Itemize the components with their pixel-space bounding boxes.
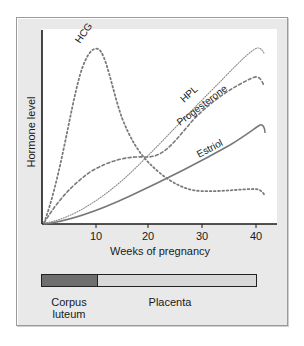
- y-axis-label: Hormone level: [25, 97, 37, 168]
- progesterone-label: Progesterone: [175, 82, 230, 127]
- corpus-label-line1: Corpus: [48, 296, 90, 308]
- hpl-curve: [44, 48, 264, 223]
- hormone-chart: HCG HPL Progesterone Estriol: [0, 0, 304, 346]
- corpus-luteum-segment: [42, 275, 98, 286]
- x-tick-label-10: 10: [90, 230, 102, 242]
- hcg-curve: [44, 49, 265, 223]
- x-tick-label-40: 40: [250, 230, 262, 242]
- estriol-curve: [44, 125, 265, 224]
- phase-bar: [41, 274, 257, 287]
- corpus-label-line2: luteum: [48, 308, 90, 320]
- placenta-segment: [98, 275, 256, 286]
- placenta-label: Placenta: [140, 296, 200, 308]
- x-axis-label: Weeks of pregnancy: [110, 245, 210, 257]
- x-tick-label-20: 20: [142, 230, 154, 242]
- corpus-luteum-label: Corpus luteum: [48, 296, 90, 320]
- x-tick-label-30: 30: [196, 230, 208, 242]
- hcg-label: HCG: [73, 20, 95, 45]
